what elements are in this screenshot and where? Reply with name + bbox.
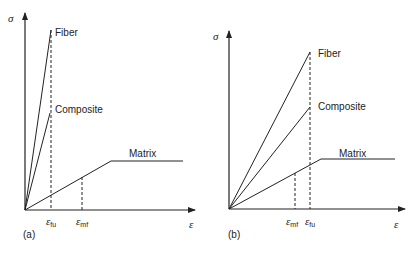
matrix-curve-a — [25, 161, 183, 210]
matrix-curve-b — [229, 159, 395, 209]
epsilon-label-b: ε — [394, 218, 399, 230]
efu-label-b: εfu — [305, 215, 315, 228]
fiber-curve-b — [229, 52, 310, 209]
fiber-label-a: Fiber — [55, 27, 78, 38]
sigma-label-b: σ — [213, 30, 219, 42]
stress-strain-diagram: σ ε Fiber Composite Matrix εfu εmf (a) σ… — [0, 0, 413, 253]
panel-label-b: (b) — [228, 229, 240, 240]
sigma-label-a: σ — [8, 12, 14, 24]
emf-label-b: εmf — [286, 215, 298, 228]
composite-label-b: Composite — [318, 101, 366, 112]
panel-a: σ ε Fiber Composite Matrix εfu εmf (a) — [8, 12, 195, 240]
panel-b: σ ε Fiber Composite Matrix εmf εfu (b) — [213, 30, 405, 240]
fiber-curve-a — [25, 30, 51, 210]
composite-curve-b — [229, 107, 310, 209]
efu-label-a: εfu — [46, 215, 56, 228]
fiber-label-b: Fiber — [318, 48, 341, 59]
panel-label-a: (a) — [23, 229, 35, 240]
epsilon-label-a: ε — [189, 218, 194, 230]
composite-curve-a — [25, 113, 50, 210]
matrix-label-a: Matrix — [129, 148, 156, 159]
matrix-label-b: Matrix — [339, 148, 366, 159]
emf-label-a: εmf — [76, 215, 88, 228]
composite-label-a: Composite — [55, 104, 103, 115]
